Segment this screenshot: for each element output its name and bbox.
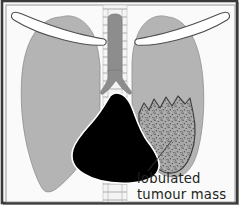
tumour-label-line2: tumour mass: [137, 187, 226, 202]
diagram-canvas: lobulated tumour mass: [0, 0, 242, 208]
trachea: [108, 14, 122, 72]
chest-xray-diagram: lobulated tumour mass: [0, 0, 242, 208]
tumour-label-line1: lobulated: [137, 171, 201, 186]
